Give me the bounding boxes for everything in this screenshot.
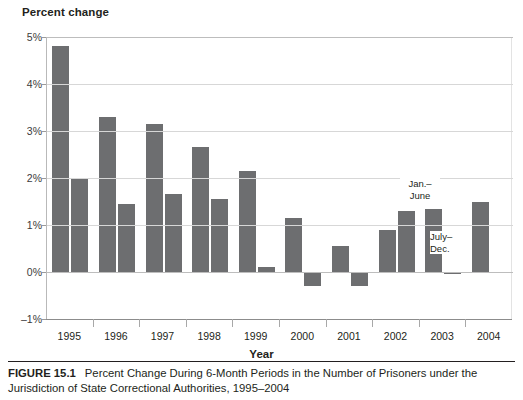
bar — [239, 171, 256, 272]
gridline — [47, 272, 513, 273]
bar — [304, 272, 321, 286]
x-tick-mark — [326, 319, 327, 327]
x-tick-mark — [139, 319, 140, 327]
plot-area — [46, 37, 512, 319]
jan-june-line1: Jan.– — [400, 178, 440, 190]
y-tick-label: 2% — [27, 172, 42, 184]
gridline — [47, 178, 513, 179]
x-tick-mark — [372, 319, 373, 327]
y-tick-label: –1% — [21, 313, 42, 325]
jan-june-line2: June — [400, 190, 440, 202]
x-tick-mark — [465, 319, 466, 327]
bar — [52, 46, 69, 272]
x-tick-label: 2000 — [291, 330, 314, 342]
x-tick-label: 2004 — [477, 330, 500, 342]
y-tick-label: 0% — [27, 266, 42, 278]
x-tick-label: 1996 — [104, 330, 127, 342]
y-tick-label: 3% — [27, 125, 42, 137]
jan-june-annotation: Jan.– June — [400, 178, 440, 201]
x-axis-title: Year — [0, 348, 523, 360]
gridline — [47, 225, 513, 226]
bar — [146, 124, 163, 272]
figure-container: Percent change 5%4%3%2%1%0%–1% Jan.– Jun… — [0, 0, 523, 400]
bar — [285, 218, 302, 272]
july-dec-annotation: July– Dec. — [430, 231, 464, 254]
figure-caption-text: Percent Change During 6-Month Periods in… — [8, 367, 477, 394]
y-tick-label: 5% — [27, 31, 42, 43]
x-tick-label: 1998 — [197, 330, 220, 342]
bar — [211, 199, 228, 272]
bar — [118, 204, 135, 272]
x-tick-mark — [279, 319, 280, 327]
bar — [398, 211, 415, 272]
bar — [351, 272, 368, 286]
bar — [99, 117, 116, 272]
x-tick-label: 1995 — [58, 330, 81, 342]
x-tick-mark — [419, 319, 420, 327]
bar — [165, 194, 182, 272]
x-tick-mark — [93, 319, 94, 327]
bar — [192, 147, 209, 272]
bar — [472, 202, 489, 273]
y-tick-label: 1% — [27, 219, 42, 231]
x-tick-label: 2002 — [384, 330, 407, 342]
figure-number: FIGURE 15.1 — [8, 367, 76, 379]
gridline — [47, 131, 513, 132]
bar — [379, 230, 396, 272]
x-tick-label: 2003 — [430, 330, 453, 342]
y-tick-label: 4% — [27, 78, 42, 90]
x-tick-label: 1997 — [151, 330, 174, 342]
x-tick-label: 1999 — [244, 330, 267, 342]
july-dec-line2: Dec. — [430, 243, 464, 255]
y-axis-labels: 5%4%3%2%1%0%–1% — [0, 37, 42, 319]
gridline — [47, 84, 513, 85]
caption-divider — [8, 361, 515, 362]
bar — [332, 246, 349, 272]
y-axis-title: Percent change — [22, 6, 109, 18]
july-dec-line1: July– — [430, 231, 464, 243]
figure-caption: FIGURE 15.1Percent Change During 6-Month… — [8, 366, 515, 396]
x-tick-mark — [232, 319, 233, 327]
gridline — [47, 37, 513, 38]
x-tick-mark — [186, 319, 187, 327]
x-tick-label: 2001 — [337, 330, 360, 342]
